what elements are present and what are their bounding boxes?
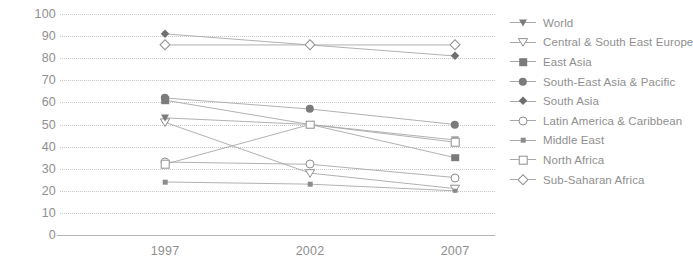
legend-item[interactable]: Central & South East Europe — [510, 33, 668, 53]
x-axis-tick-label: 2007 — [425, 244, 485, 258]
y-axis-tick-label: 10 — [0, 207, 56, 219]
legend-item-label: East Asia — [543, 56, 592, 68]
y-axis-tick-label: 40 — [0, 141, 56, 153]
data-point-marker — [451, 154, 459, 162]
y-axis-tick-label: 70 — [0, 74, 56, 86]
legend: WorldCentral & South East EuropeEast Asi… — [510, 13, 668, 189]
legend-marker-icon — [510, 56, 536, 68]
legend-marker-icon — [510, 76, 536, 88]
y-axis-tick-label: 50 — [0, 119, 56, 131]
plot-area — [60, 14, 495, 235]
y-axis-tick-label: 0 — [0, 229, 56, 241]
y-axis-tick-label: 60 — [0, 96, 56, 108]
y-axis-tick-label: 100 — [0, 8, 56, 20]
legend-marker-icon — [510, 134, 536, 146]
legend-item[interactable]: North Africa — [510, 150, 668, 170]
data-point-marker — [161, 114, 169, 121]
data-point-marker — [306, 160, 315, 169]
x-axis-tick-label: 1997 — [135, 244, 195, 258]
data-point-marker — [161, 160, 170, 169]
legend-marker-icon — [510, 115, 536, 127]
y-axis-tick-label: 90 — [0, 30, 56, 42]
legend-item-label: South Asia — [543, 95, 599, 107]
legend-item-label: Central & South East Europe — [543, 36, 693, 48]
legend-item[interactable]: Latin America & Caribbean — [510, 111, 668, 131]
legend-item[interactable]: South Asia — [510, 91, 668, 111]
legend-item-label: South-East Asia & Pacific — [543, 76, 675, 88]
legend-marker-icon — [510, 154, 536, 166]
data-point-marker — [163, 180, 168, 185]
legend-item-label: Sub-Saharan Africa — [543, 174, 645, 186]
legend-item[interactable]: Sub-Saharan Africa — [510, 170, 668, 190]
data-point-marker — [306, 120, 315, 129]
y-axis-labels: 1009080706050403020100 — [0, 0, 56, 235]
data-point-marker — [308, 182, 313, 187]
y-axis-tick-label: 20 — [0, 185, 56, 197]
legend-item[interactable]: South-East Asia & Pacific — [510, 72, 668, 92]
legend-marker-icon — [510, 17, 536, 29]
legend-item-label: Latin America & Caribbean — [543, 115, 682, 127]
legend-marker-icon — [510, 174, 536, 186]
y-axis-tick-label: 80 — [0, 52, 56, 64]
legend-item[interactable]: East Asia — [510, 52, 668, 72]
y-axis-tick-label: 30 — [0, 163, 56, 175]
legend-item-label: Middle East — [543, 134, 604, 146]
series-line — [165, 125, 455, 165]
legend-marker-icon — [510, 36, 536, 48]
data-point-marker — [453, 189, 458, 194]
x-axis-tick-label: 2002 — [280, 244, 340, 258]
data-point-marker — [451, 173, 460, 182]
legend-item-label: World — [543, 17, 573, 29]
data-point-marker — [451, 138, 460, 147]
series-lines — [60, 14, 495, 235]
series-line — [165, 122, 455, 188]
legend-item[interactable]: Middle East — [510, 131, 668, 151]
x-axis-line — [57, 235, 495, 236]
legend-item[interactable]: World — [510, 13, 668, 33]
legend-item-label: North Africa — [543, 154, 604, 166]
legend-marker-icon — [510, 95, 536, 107]
